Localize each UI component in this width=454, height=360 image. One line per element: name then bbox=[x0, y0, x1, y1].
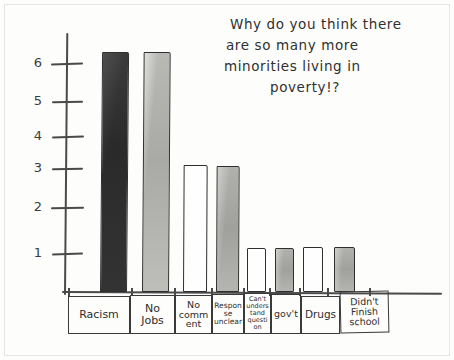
bar-cant-understand-question bbox=[247, 248, 266, 292]
y-axis-label-4: 4 bbox=[24, 128, 42, 143]
title-line-1: Why do you think there bbox=[230, 14, 446, 35]
y-axis-tick-2 bbox=[51, 207, 84, 209]
chart-title-handwritten: Why do you think there are so many more … bbox=[224, 14, 446, 98]
category-label-no-comment: No comment bbox=[175, 295, 212, 334]
y-axis-tick-6 bbox=[51, 63, 83, 66]
bar-racism bbox=[100, 52, 129, 292]
y-axis-tick-5 bbox=[52, 101, 83, 104]
category-label-text: Racism bbox=[79, 309, 119, 321]
y-axis-tick-1 bbox=[52, 253, 83, 256]
scanned-chart-page: 6 5 4 3 2 1 Racism bbox=[0, 0, 454, 360]
category-label-text: gov't bbox=[274, 309, 298, 319]
title-line-2: are so many more bbox=[226, 35, 446, 56]
category-label-text: Can't understand question bbox=[246, 296, 269, 330]
y-axis-tick-3 bbox=[52, 168, 83, 171]
bar-response-unclear bbox=[216, 166, 240, 292]
bar-drugs bbox=[303, 247, 323, 292]
category-label-didnt-finish-school: Didn't Finish school bbox=[340, 290, 390, 333]
title-line-4: poverty!? bbox=[270, 77, 446, 98]
bar-no-jobs bbox=[142, 52, 171, 292]
category-label-text: No Jobs bbox=[132, 303, 173, 326]
bar-no-comment bbox=[183, 165, 208, 292]
category-label-text: No comment bbox=[177, 300, 210, 330]
y-axis-label-1: 1 bbox=[24, 245, 42, 260]
category-label-no-jobs: No Jobs bbox=[130, 295, 175, 334]
category-label-text: Drugs bbox=[305, 309, 336, 320]
category-label-govt: gov't bbox=[271, 294, 301, 334]
y-axis-label-2: 2 bbox=[24, 199, 42, 214]
x-axis-tick-7 bbox=[327, 288, 329, 296]
y-axis-label-6: 6 bbox=[24, 55, 42, 70]
y-axis-label-3: 3 bbox=[24, 160, 42, 175]
category-label-text: Didn't Finish school bbox=[342, 297, 388, 328]
bar-didnt-finish-school bbox=[334, 247, 355, 292]
category-label-cant-understand-question: Can't understand question bbox=[244, 293, 271, 334]
category-label-racism: Racism bbox=[68, 296, 130, 334]
y-axis-label-5: 5 bbox=[24, 93, 42, 108]
category-label-text: Response unclear bbox=[214, 302, 242, 326]
category-label-drugs: Drugs bbox=[301, 296, 340, 334]
bar-govt bbox=[275, 248, 294, 292]
title-line-3: minorities living in bbox=[224, 56, 446, 77]
x-axis-tick-0 bbox=[68, 288, 70, 296]
category-label-response-unclear: Response unclear bbox=[212, 294, 244, 334]
y-axis-tick-4 bbox=[52, 135, 84, 138]
y-axis-line bbox=[64, 33, 68, 295]
